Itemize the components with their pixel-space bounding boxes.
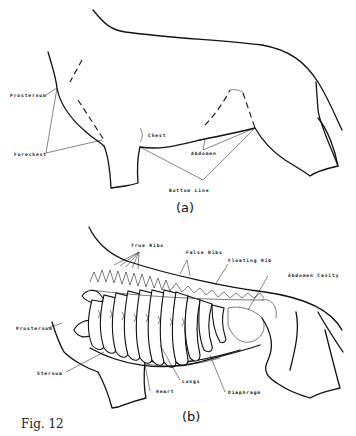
label-bottom-line: Bottom Line xyxy=(169,188,209,193)
label-abdomen-cavity: Abdomen Cavity xyxy=(288,273,339,278)
panel-a-dog-outline xyxy=(48,10,342,188)
panel-b-label: (b) xyxy=(182,409,200,424)
label-true-ribs: True Ribs xyxy=(131,243,164,248)
label-floating-rib: Floating Rib xyxy=(228,258,272,263)
anatomy-figure: Prosternum Forechest Chest Abdomen Botto… xyxy=(0,0,356,436)
figure-caption: Fig. 12 xyxy=(21,417,64,431)
rib-cage xyxy=(74,270,276,367)
label-sternum: Sternum xyxy=(37,371,63,376)
label-lungs: Lungs xyxy=(182,379,200,384)
panel-a-label: (a) xyxy=(176,200,194,215)
label-forechest: Forechest xyxy=(14,152,47,157)
label-false-ribs: False Ribs xyxy=(186,250,223,255)
label-heart: Heart xyxy=(156,389,174,394)
label-prosternum-a: Prosternum xyxy=(10,93,47,98)
label-prosternum-b: Prosternum xyxy=(16,326,53,331)
label-diaphragm: Diaphragm xyxy=(228,390,261,395)
label-chest: Chest xyxy=(148,133,166,138)
label-abdomen: Abdomen xyxy=(191,151,217,156)
